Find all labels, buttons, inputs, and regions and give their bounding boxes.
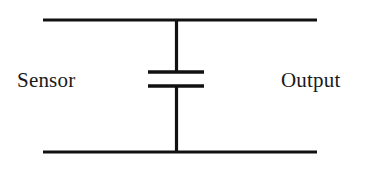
sensor-input-label: Sensor <box>17 70 75 91</box>
circuit-diagram-canvas: Sensor Output <box>0 0 374 169</box>
output-label: Output <box>281 70 341 91</box>
